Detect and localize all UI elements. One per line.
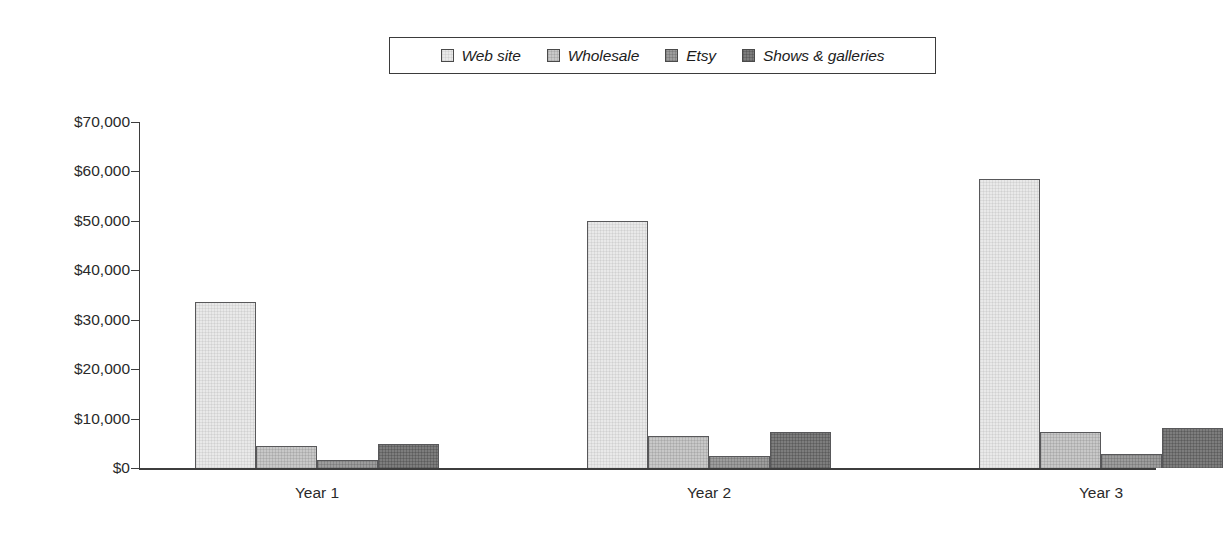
y-axis-tick-mark (131, 369, 139, 370)
legend-label-web-site: Web site (462, 47, 521, 65)
bar-web-site-year-1 (195, 302, 256, 468)
y-axis-tick-mark (131, 419, 139, 420)
legend-item-web-site: Web site (441, 47, 521, 65)
bar-shows-galleries-year-3 (1162, 428, 1223, 468)
bar-wholesale-year-3 (1040, 432, 1101, 468)
y-axis-tick-label: $40,000 (74, 261, 130, 279)
bar-etsy-year-1 (317, 460, 378, 468)
y-axis-tick-mark (131, 171, 139, 172)
y-axis-line (139, 122, 140, 469)
chart-legend: Web site Wholesale Etsy Shows & gallerie… (389, 37, 936, 74)
y-axis-tick-mark (131, 221, 139, 222)
legend-item-wholesale: Wholesale (547, 47, 639, 65)
y-axis-tick-label: $10,000 (74, 410, 130, 428)
legend-swatch-etsy (665, 49, 678, 62)
legend-label-wholesale: Wholesale (568, 47, 639, 65)
y-axis-tick-label: $60,000 (74, 162, 130, 180)
legend-item-shows-galleries: Shows & galleries (742, 47, 885, 65)
legend-swatch-web-site (441, 49, 454, 62)
bar-etsy-year-2 (709, 456, 770, 468)
x-axis-tick-label: Year 1 (295, 484, 339, 502)
legend-swatch-shows-galleries (742, 49, 755, 62)
bar-shows-galleries-year-1 (378, 444, 439, 468)
bar-etsy-year-3 (1101, 454, 1162, 468)
legend-swatch-wholesale (547, 49, 560, 62)
legend-label-etsy: Etsy (686, 47, 716, 65)
y-axis-tick-label: $70,000 (74, 113, 130, 131)
y-axis-tick-mark (131, 270, 139, 271)
y-axis-tick-label: $20,000 (74, 360, 130, 378)
y-axis-tick-mark (131, 468, 139, 469)
x-axis-tick-label: Year 3 (1079, 484, 1123, 502)
y-axis-tick-label: $0 (113, 459, 130, 477)
y-axis-tick-mark (131, 122, 139, 123)
x-axis-line (139, 468, 1156, 470)
bar-web-site-year-2 (587, 221, 648, 468)
bar-shows-galleries-year-2 (770, 432, 831, 468)
x-axis-tick-label: Year 2 (687, 484, 731, 502)
y-axis-labels: $0$10,000$20,000$30,000$40,000$50,000$60… (38, 0, 130, 536)
legend-item-etsy: Etsy (665, 47, 716, 65)
y-axis-tick-label: $30,000 (74, 311, 130, 329)
bar-wholesale-year-2 (648, 436, 709, 468)
y-axis-tick-mark (131, 320, 139, 321)
bar-wholesale-year-1 (256, 446, 317, 468)
bar-web-site-year-3 (979, 179, 1040, 468)
legend-label-shows-galleries: Shows & galleries (763, 47, 885, 65)
y-axis-tick-label: $50,000 (74, 212, 130, 230)
